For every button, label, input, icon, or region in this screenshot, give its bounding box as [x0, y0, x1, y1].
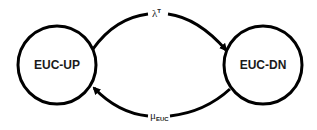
transition-up-to-dn: λT [93, 7, 226, 50]
lambda-superscript: T [157, 8, 161, 14]
arc-dn-to-up-left [94, 88, 148, 116]
arc-up-to-dn-left [93, 14, 148, 49]
arc-up-to-dn-right [168, 14, 226, 50]
state-diagram: λT μEUC EUC-UP EUC-DN [0, 0, 317, 130]
state-euc-dn: EUC-DN [224, 26, 302, 104]
mu-subscript: EUC [156, 116, 169, 122]
state-euc-up-label: EUC-UP [34, 58, 80, 72]
state-euc-dn-label: EUC-DN [240, 58, 287, 72]
arc-dn-to-up-right [170, 89, 230, 116]
mu-label: μEUC [150, 109, 169, 122]
lambda-label: λT [152, 7, 161, 19]
state-euc-up: EUC-UP [18, 26, 96, 104]
transition-dn-to-up: μEUC [94, 88, 230, 122]
